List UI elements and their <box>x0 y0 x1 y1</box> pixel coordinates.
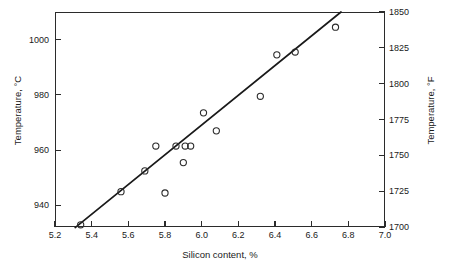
bottom-axis-tick <box>238 221 239 227</box>
data-point-marker <box>200 110 206 116</box>
bottom-axis-tick-label: 5.4 <box>77 230 107 240</box>
chart-figure: 9409609801000 17001725175017751800182518… <box>0 0 455 273</box>
right-axis-tick <box>379 11 385 12</box>
bottom-axis-tick <box>311 221 312 227</box>
left-axis-tick <box>55 150 61 151</box>
left-axis-tick-label: 1000 <box>15 35 49 45</box>
right-axis-tick <box>379 155 385 156</box>
right-axis-tick-label: 1825 <box>389 43 425 53</box>
bottom-axis-tick-label: 6.6 <box>297 230 327 240</box>
right-axis-tick <box>379 83 385 84</box>
bottom-axis-tick-label: 6.8 <box>333 230 363 240</box>
bottom-axis-tick-label: 5.8 <box>150 230 180 240</box>
bottom-axis-tick <box>201 221 202 227</box>
bottom-axis-tick <box>164 221 165 227</box>
bottom-axis-tick-label: 7.0 <box>370 230 400 240</box>
regression-line <box>75 12 341 228</box>
bottom-axis-tick <box>54 221 55 227</box>
data-point-marker <box>162 190 168 196</box>
regression-line-segment <box>75 12 341 228</box>
right-axis-tick <box>379 191 385 192</box>
bottom-axis-tick-label: 6.0 <box>187 230 217 240</box>
data-point-marker <box>153 143 159 149</box>
bottom-axis-tick-label: 6.4 <box>260 230 290 240</box>
bottom-axis-tick <box>91 221 92 227</box>
bottom-axis-tick-label: 5.2 <box>40 230 70 240</box>
bottom-axis-tick <box>274 221 275 227</box>
x-axis-title: Silicon content, % <box>55 249 385 260</box>
right-axis-tick-label: 1850 <box>389 7 425 17</box>
bottom-axis-tick-label: 6.2 <box>223 230 253 240</box>
y-axis-title-fahrenheit: Temperature, °F <box>425 56 436 166</box>
plot-canvas <box>55 12 385 227</box>
left-axis-tick <box>55 39 61 40</box>
data-point-marker <box>332 24 338 30</box>
data-point-markers <box>78 24 339 228</box>
bottom-axis-tick <box>128 221 129 227</box>
bottom-axis-tick <box>384 221 385 227</box>
right-axis-tick-label: 1725 <box>389 186 425 196</box>
data-point-marker <box>274 52 280 58</box>
left-axis-tick <box>55 205 61 206</box>
right-axis-tick-label: 1800 <box>389 79 425 89</box>
left-axis-tick-label: 940 <box>15 200 49 210</box>
right-axis-tick <box>379 119 385 120</box>
data-point-marker <box>257 93 263 99</box>
bottom-axis-tick-label: 5.6 <box>113 230 143 240</box>
data-point-marker <box>213 128 219 134</box>
bottom-axis-tick <box>348 221 349 227</box>
right-axis-tick <box>379 47 385 48</box>
right-axis-tick-label: 1750 <box>389 150 425 160</box>
data-point-marker <box>180 160 186 166</box>
y-axis-title-celsius: Temperature, °C <box>12 56 23 166</box>
right-axis-tick-label: 1775 <box>389 115 425 125</box>
left-axis-tick <box>55 94 61 95</box>
